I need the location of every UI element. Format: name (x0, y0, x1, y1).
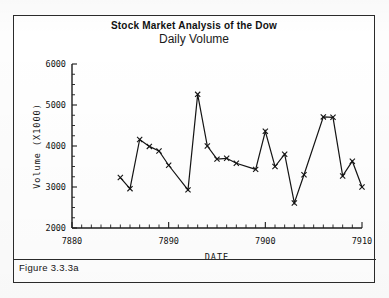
chart-axes (72, 64, 362, 228)
svg-text:3000: 3000 (46, 182, 66, 192)
caption-divider (14, 259, 376, 260)
svg-text:6000: 6000 (46, 59, 66, 69)
x-axis-ticks: 7880789079007910 (62, 222, 372, 246)
svg-text:Volume (X1000): Volume (X1000) (32, 103, 42, 189)
svg-text:DATE: DATE (205, 252, 229, 262)
svg-text:7910: 7910 (352, 236, 372, 246)
svg-text:7890: 7890 (158, 236, 178, 246)
line-chart: 20003000400050006000 7880789079007910 DA… (14, 16, 376, 284)
plot-area: 20003000400050006000 7880789079007910 DA… (14, 16, 376, 284)
svg-text:4000: 4000 (46, 141, 66, 151)
data-series-daily-volume (118, 92, 365, 206)
figure-caption: Figure 3.3.3a (19, 262, 79, 273)
svg-text:7900: 7900 (255, 236, 275, 246)
figure-page: Stock Market Analysis of the Dow Daily V… (0, 0, 389, 298)
figure-frame: Stock Market Analysis of the Dow Daily V… (13, 15, 375, 283)
svg-text:5000: 5000 (46, 100, 66, 110)
svg-text:2000: 2000 (46, 223, 66, 233)
svg-text:7880: 7880 (62, 236, 82, 246)
